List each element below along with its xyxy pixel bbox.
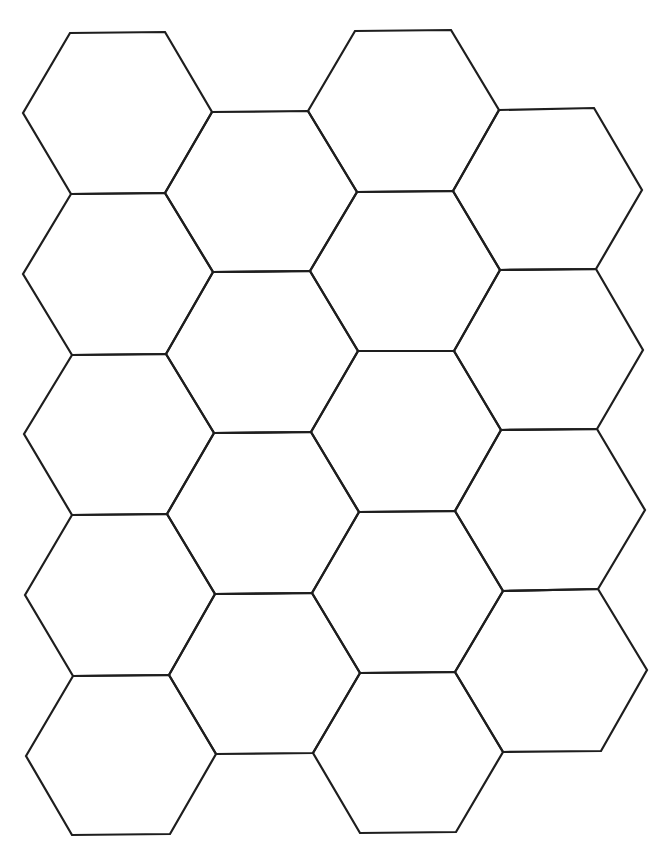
hexagon-c4-r2 <box>454 269 643 430</box>
hexagon-c2-r4 <box>169 593 360 754</box>
hexagon-c1-r2 <box>23 193 213 355</box>
hexagon-c2-r3 <box>167 432 359 594</box>
hexagon-c2-r1 <box>165 111 357 272</box>
hexagon-c2-r2 <box>166 271 358 433</box>
hexagon-c1-r4 <box>25 514 215 676</box>
hexagon-c1-r3 <box>24 354 214 515</box>
hexagon-layer <box>23 30 647 835</box>
hexagon-c3-r2 <box>310 191 500 351</box>
hexagon-c3-r5 <box>313 672 503 833</box>
hexagon-c3-r1 <box>308 30 499 192</box>
hexagon-grid <box>0 0 671 847</box>
hexagon-c1-r5 <box>26 675 216 835</box>
hexagon-c1-r1 <box>23 32 212 194</box>
hexagon-c3-r4 <box>312 511 503 673</box>
hexagon-c3-r3 <box>311 351 501 512</box>
hexagon-c4-r4 <box>455 589 647 752</box>
hexagon-c4-r1 <box>453 108 642 270</box>
hexagon-c4-r3 <box>455 429 645 591</box>
